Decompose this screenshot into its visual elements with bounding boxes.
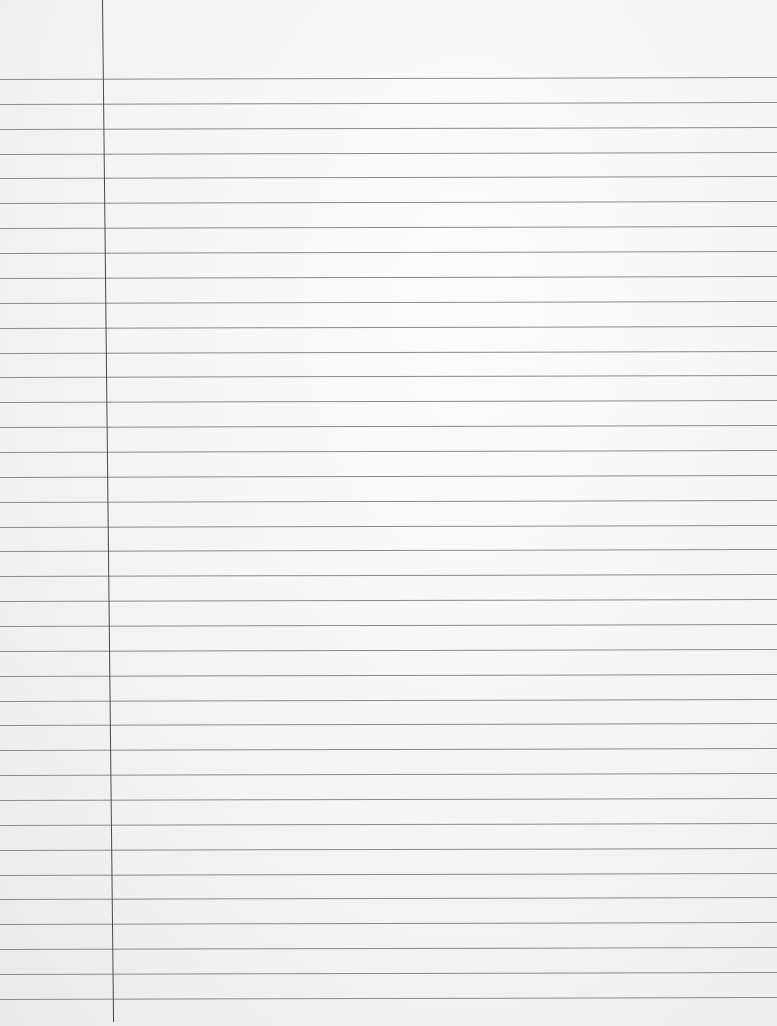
ruled-line bbox=[0, 500, 777, 503]
ruled-line bbox=[0, 773, 777, 776]
ruled-line bbox=[0, 176, 777, 179]
ruled-line bbox=[0, 823, 777, 826]
ruled-line bbox=[0, 152, 777, 155]
ruled-line bbox=[0, 226, 777, 229]
ruled-line bbox=[0, 574, 777, 577]
ruled-line bbox=[0, 77, 777, 80]
ruled-line bbox=[0, 624, 777, 627]
ruled-line bbox=[0, 524, 777, 527]
ruled-line bbox=[0, 723, 777, 726]
ruled-line bbox=[0, 301, 777, 304]
ruled-line bbox=[0, 972, 777, 975]
ruled-line bbox=[0, 375, 777, 378]
ruled-line bbox=[0, 350, 777, 353]
ruled-line bbox=[0, 425, 777, 428]
ruled-line bbox=[0, 475, 777, 478]
ruled-line bbox=[0, 698, 777, 701]
ruled-line bbox=[0, 450, 777, 453]
ruled-line bbox=[0, 201, 777, 204]
ruled-line bbox=[0, 872, 777, 875]
ruled-line bbox=[0, 276, 777, 279]
ruled-line bbox=[0, 549, 777, 552]
ruled-line bbox=[0, 127, 777, 130]
ruled-line bbox=[0, 798, 777, 801]
ruled-line bbox=[0, 848, 777, 851]
ruled-line bbox=[0, 251, 777, 254]
ruled-line bbox=[0, 897, 777, 900]
ruled-line bbox=[0, 649, 777, 652]
ruled-line bbox=[0, 326, 777, 329]
ruled-line bbox=[0, 599, 777, 602]
lined-paper-sheet bbox=[0, 0, 777, 1026]
ruled-line bbox=[0, 674, 777, 677]
ruled-line bbox=[0, 997, 777, 1000]
ruled-line bbox=[0, 102, 777, 105]
ruled-line bbox=[0, 400, 777, 403]
ruled-line bbox=[0, 748, 777, 751]
ruled-line bbox=[0, 947, 777, 950]
ruled-line bbox=[0, 922, 777, 925]
